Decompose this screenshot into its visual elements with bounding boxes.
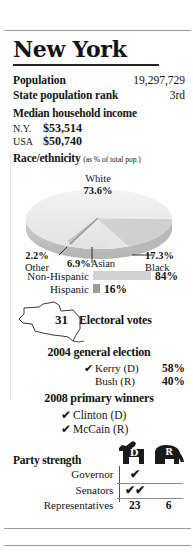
pie-label-name: Black xyxy=(145,262,170,273)
primary-winner-row-mccain: ✔ McCain (R) xyxy=(13,422,185,436)
candidate-name: Kerry (D) xyxy=(95,362,153,375)
income-bar-label: USA xyxy=(13,136,39,147)
donkey-icon: D xyxy=(119,441,144,464)
bottom-divider-1 xyxy=(4,528,191,529)
title-underline xyxy=(13,64,159,66)
race-pie-chart: White 73.6% 17.3% Black 6.9%Asian 2.2% O… xyxy=(13,167,185,269)
primary-winner-name: McCain (R) xyxy=(73,422,139,436)
income-heading: Median household income xyxy=(13,107,185,119)
pie-label-white: White 73.6% xyxy=(65,173,131,197)
income-bar-usa: USA $50,740 xyxy=(13,135,185,147)
pie-label-name: Asian xyxy=(91,258,116,269)
electoral-votes-block: 31 Electoral votes xyxy=(13,298,185,344)
candidate-pct: 40% xyxy=(153,375,185,388)
hispanic-bar-hispanic: Hispanic 16% xyxy=(13,282,185,295)
party-row-label: Governor xyxy=(13,468,117,480)
party-strength-table: Party strength D R Governor ✔ xyxy=(13,440,185,502)
stat-label: State population rank xyxy=(13,88,118,102)
pie-label-pct: 73.6% xyxy=(84,185,113,196)
primary-heading: 2008 primary winners xyxy=(13,391,185,406)
stat-row-population: Population 19,297,729 xyxy=(13,73,185,87)
pie-label-black: 17.3% Black xyxy=(145,250,189,274)
hispanic-bar-value: 16% xyxy=(104,283,127,295)
hispanic-bar-fill xyxy=(93,284,100,293)
top-divider xyxy=(4,30,191,31)
pie-label-other: 2.2% Other xyxy=(15,250,59,274)
stat-value: 3rd xyxy=(170,88,185,102)
hispanic-bar-fill xyxy=(93,271,151,280)
hispanic-bar-label: Hispanic xyxy=(13,283,93,295)
stat-row-rank: State population rank 3rd xyxy=(13,88,185,102)
winner-check-icon: ✔ xyxy=(59,422,73,436)
race-heading-note: (as % of total pop.) xyxy=(83,155,141,164)
party-row-label: Representatives xyxy=(13,499,117,511)
pie-label-name: White xyxy=(85,173,111,184)
pie-label-pct: 6.9% xyxy=(67,258,91,269)
party-row-governor: Governor ✔ xyxy=(13,467,185,481)
party-row-r-value: 6 xyxy=(152,499,185,511)
party-row-label: Senators xyxy=(13,484,117,496)
state-fact-card: New York Population 19,297,729 State pop… xyxy=(0,0,193,553)
primary-winner-row-clinton: ✔ Clinton (D) xyxy=(13,408,185,422)
svg-text:D: D xyxy=(130,447,139,458)
pie-label-asian: 6.9%Asian xyxy=(67,258,139,270)
general-election-heading: 2004 general election xyxy=(13,345,185,360)
race-heading: Race/ethnicity (as % of total pop.) xyxy=(13,152,185,164)
candidate-row-kerry: ✔ Kerry (D) 58% xyxy=(13,362,185,375)
candidate-row-bush: Bush (R) 40% xyxy=(13,375,185,388)
candidate-name: Bush (R) xyxy=(95,375,153,388)
winner-check-icon: ✔ xyxy=(59,408,73,422)
primary-winner-name: Clinton (D) xyxy=(73,408,139,422)
elephant-icon: R xyxy=(155,445,184,464)
electoral-votes-number: 31 xyxy=(55,312,68,328)
electoral-votes-label: Electoral votes xyxy=(79,313,152,328)
party-symbols: D R xyxy=(117,440,187,466)
income-bar-amount: $50,740 xyxy=(43,134,82,149)
party-row-representatives: Representatives 23 6 xyxy=(13,499,185,511)
stat-label: Population xyxy=(13,73,66,87)
page-title: New York xyxy=(13,36,185,62)
pie-label-name: Other xyxy=(25,262,49,273)
party-strength-title: Party strength xyxy=(13,454,81,466)
party-row-d-value: 23 xyxy=(117,499,152,511)
party-row-senators: Senators ✔✔ xyxy=(13,483,185,497)
left-guide-rule xyxy=(10,150,11,400)
income-bar-label: N.Y. xyxy=(13,123,39,134)
candidate-pct: 58% xyxy=(153,362,185,375)
pie-label-pct: 2.2% xyxy=(25,250,49,261)
svg-text:R: R xyxy=(165,447,173,457)
race-heading-text: Race/ethnicity xyxy=(13,152,80,164)
stat-value: 19,297,729 xyxy=(133,73,185,87)
pie-label-pct: 17.3% xyxy=(145,250,174,261)
bottom-divider-2 xyxy=(4,545,191,546)
income-bar-ny: N.Y. $53,514 xyxy=(13,122,185,134)
party-row-d-value: ✔ xyxy=(117,467,152,481)
party-row-d-value: ✔✔ xyxy=(117,483,152,497)
winner-check-icon: ✔ xyxy=(82,362,95,375)
